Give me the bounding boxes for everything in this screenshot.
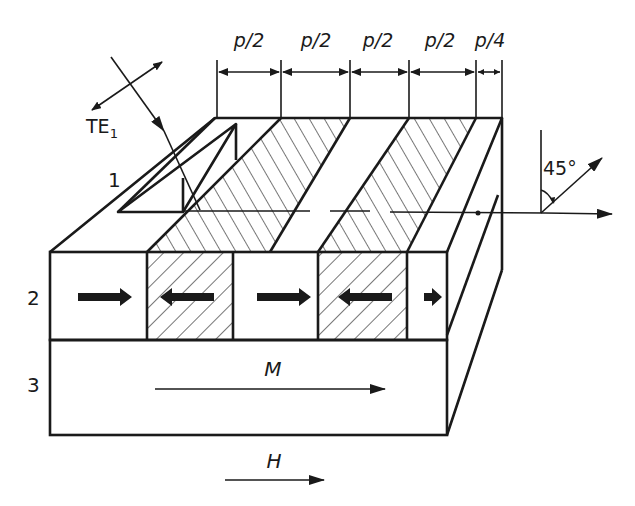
layer-3-substrate bbox=[50, 340, 447, 435]
incident-wave-label: TE1 bbox=[85, 115, 118, 141]
dimension-label-5: p/4 bbox=[474, 29, 506, 51]
dimension-label-3: p/2 bbox=[362, 29, 394, 51]
layer-2-front bbox=[50, 252, 447, 340]
dimension-label-4: p/2 bbox=[424, 29, 456, 51]
field-label: H bbox=[266, 449, 281, 473]
angle-label: 45° bbox=[543, 157, 577, 179]
magnetization-label: M bbox=[264, 357, 281, 381]
top-stripe-hatched-1 bbox=[147, 118, 350, 252]
layer-label-3: 3 bbox=[27, 373, 40, 397]
layer-label-2: 2 bbox=[27, 286, 40, 310]
layer-label-1: 1 bbox=[108, 168, 121, 192]
side-face bbox=[447, 118, 502, 435]
magneto-optic-device-diagram: p/2 p/2 p/2 p/2 p/4 bbox=[0, 0, 635, 506]
dimension-label-1: p/2 bbox=[233, 29, 265, 51]
domain-arrow-right-2 bbox=[257, 288, 311, 306]
top-stripe-hatched-2 bbox=[318, 118, 476, 252]
dimension-line bbox=[217, 60, 502, 118]
axis-point bbox=[476, 211, 481, 216]
domain-arrow-right-3 bbox=[424, 288, 442, 306]
dimension-label-2: p/2 bbox=[300, 29, 332, 51]
domain-arrow-right-1 bbox=[78, 288, 132, 306]
